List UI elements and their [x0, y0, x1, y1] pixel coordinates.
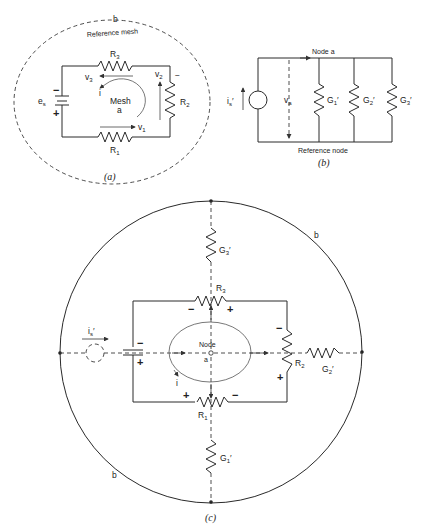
r1-resistor-icon	[197, 397, 228, 407]
v2-label: v2	[155, 69, 163, 80]
g3-conductance-icon	[387, 84, 397, 116]
caption-b: (b)	[318, 157, 330, 169]
r3-resistor-icon	[98, 61, 132, 71]
g3-conductance-icon	[206, 228, 216, 262]
mesh-name: a	[117, 105, 122, 115]
node-a-label: Node a	[312, 48, 335, 55]
r2-resistor-icon	[282, 330, 292, 372]
v1-label: v1	[138, 122, 146, 133]
g3-label: G3′	[219, 245, 231, 256]
r1-resistor-icon	[98, 132, 132, 142]
r2-minus-sign: −	[276, 322, 282, 334]
battery-plus-sign: +	[137, 356, 143, 368]
g1-conductance-icon	[206, 440, 216, 473]
g2-conductance-icon	[307, 348, 339, 358]
caption-c: (c)	[205, 512, 217, 524]
source-is-label: is′	[88, 326, 95, 337]
source-is-label: is′	[227, 96, 234, 107]
circuit-figure: b Reference mesh R3 R1 R2 − − + es v3 v1	[0, 0, 422, 532]
outer-label-b-top: b	[314, 230, 319, 240]
r1-label: R1	[110, 145, 120, 156]
battery-plus-sign: +	[53, 107, 59, 119]
mesh-current-label: i	[176, 378, 178, 388]
g1-label: G1′	[220, 453, 232, 464]
outer-label-b-bottom: b	[112, 470, 117, 480]
g3-label: G3′	[400, 95, 412, 106]
voltage-va-label: va	[284, 95, 292, 106]
v3-label: v3	[85, 72, 93, 83]
r3-label: R3	[216, 283, 226, 294]
r3-minus-sign: −	[188, 303, 194, 315]
r3-plus-sign: +	[227, 303, 233, 315]
caption-a: (a)	[104, 171, 116, 183]
mesh-current-label: i	[99, 88, 101, 98]
r1-minus-sign: −	[232, 389, 238, 401]
g2-conductance-icon	[349, 84, 359, 116]
g2-label: G2′	[322, 364, 334, 375]
g1-conductance-icon	[314, 84, 324, 116]
battery-minus-sign: −	[53, 84, 59, 96]
current-source-icon	[249, 91, 267, 109]
r2-resistor-icon	[165, 82, 175, 118]
node-name: a	[204, 356, 208, 363]
reference-node-label: Reference node	[298, 147, 348, 154]
dual-current-source-icon	[86, 344, 104, 362]
outer-label-b: b	[113, 14, 118, 24]
figure-b-node-circuit: Node a is′ va G1′ G2′ G3′ Reference node…	[227, 48, 412, 169]
r3-label: R3	[110, 49, 120, 60]
source-es-label: es	[38, 96, 46, 107]
r2-label: R2	[295, 358, 305, 369]
figure-c-dual-circuit: b b R3 − + R1 + − R2 − + − +	[58, 199, 364, 524]
r3-resistor-icon	[195, 296, 226, 306]
r2-plus-sign: +	[277, 371, 283, 383]
g2-label: G2′	[363, 95, 375, 106]
figure-a-mesh-circuit: b Reference mesh R3 R1 R2 − − + es v3 v1	[14, 14, 210, 184]
reference-mesh-label: Reference mesh	[87, 27, 139, 38]
r2-minus-sign: −	[175, 70, 180, 80]
battery-minus-sign: −	[137, 337, 143, 349]
r1-plus-sign: +	[183, 389, 189, 401]
node-label: Node	[199, 341, 216, 348]
node-a-dot	[209, 351, 213, 355]
r1-label: R1	[198, 410, 208, 421]
g1-label: G1′	[327, 95, 339, 106]
r2-label: R2	[180, 97, 190, 108]
